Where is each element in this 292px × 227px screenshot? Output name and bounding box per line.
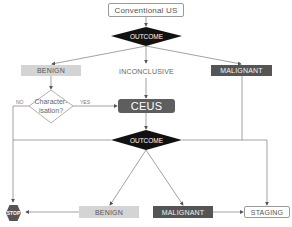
yes-label: YES xyxy=(80,99,90,105)
outcome-bottom-label: OUTCOME xyxy=(111,130,182,150)
malignant-bottom-node: MALIGNANT xyxy=(153,206,213,218)
outcome-top-label: OUTCOME xyxy=(111,27,182,46)
malignant-top-node: MALIGNANT xyxy=(211,65,272,76)
staging-node: STAGING xyxy=(244,206,290,218)
benign-bottom-node: BENIGN xyxy=(79,206,139,218)
inconclusive-node: INCONCLUSIVE xyxy=(111,65,182,77)
characterisation-label: Character- isation? xyxy=(29,97,73,115)
characterisation-line2: isation? xyxy=(29,106,73,115)
stop-label: STOP xyxy=(6,205,21,221)
benign-top-node: BENIGN xyxy=(21,65,81,76)
conventional-us-node: Conventional US xyxy=(108,3,184,17)
no-label: NO xyxy=(16,99,24,105)
ceus-node: CEUS xyxy=(118,99,175,113)
characterisation-line1: Character- xyxy=(29,97,73,106)
